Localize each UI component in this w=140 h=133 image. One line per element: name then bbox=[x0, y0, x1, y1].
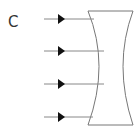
concave-lens bbox=[88, 11, 133, 125]
arrow-right-icon bbox=[58, 14, 65, 24]
arrow-right-icon bbox=[58, 79, 65, 89]
lens-diagram bbox=[0, 0, 140, 133]
ray-3 bbox=[44, 79, 104, 89]
ray-4 bbox=[44, 112, 93, 122]
arrow-right-icon bbox=[58, 46, 65, 56]
ray-2 bbox=[44, 46, 104, 56]
arrow-right-icon bbox=[58, 112, 65, 122]
ray-1 bbox=[44, 14, 94, 24]
